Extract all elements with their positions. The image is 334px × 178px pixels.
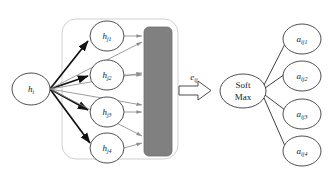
edge-softmax-to-aij4	[264, 98, 285, 146]
softmax-line1: Soft	[235, 80, 251, 90]
score-label-sub: ij	[194, 77, 198, 83]
edge-hi-to-hj4	[50, 89, 90, 143]
attention-node-aij2-sub: ij2	[301, 76, 307, 82]
diagram-canvas: eij Soft Max hi hj1 hj2	[0, 0, 334, 178]
score-label: eij	[190, 72, 198, 83]
score-block-arrow	[179, 81, 211, 100]
neighbor-nodes: hj1 hj2 hj3 hj4	[90, 21, 124, 163]
edge-hj4-to-block	[124, 143, 142, 148]
attention-nodes: aij1 aij2 aij3 aij4	[283, 24, 321, 166]
neighbor-node-hj2-sub: j2	[106, 75, 112, 81]
attention-node-aij4-sub: ij4	[301, 151, 307, 157]
neighbor-node-hj3-sub: j3	[106, 112, 112, 118]
attention-diagram: eij Soft Max hi hj1 hj2	[0, 0, 334, 178]
attention-node-aij3-sub: ij3	[301, 114, 307, 120]
edge-softmax-to-aij1	[264, 44, 285, 85]
neighbor-node-hj1-sub: j1	[106, 36, 112, 42]
edge-softmax-to-aij2	[265, 74, 285, 88]
feature-block	[144, 27, 172, 156]
softmax-to-attention-edges	[264, 44, 285, 146]
softmax-line2: Max	[235, 92, 252, 102]
neighbor-node-hj4-sub: j4	[106, 148, 112, 154]
attention-node-aij1-sub: ij1	[301, 39, 307, 45]
